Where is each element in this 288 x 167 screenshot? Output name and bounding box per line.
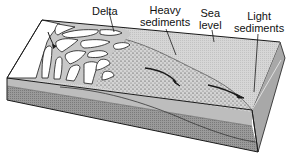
delta-label-text: Delta bbox=[92, 5, 118, 17]
light-sediments-label-line2: sediments bbox=[234, 22, 284, 34]
delta-block-diagram: Delta Heavy sediments Sea level Light se… bbox=[0, 0, 288, 167]
heavy-sediments-label: Heavy sediments bbox=[140, 4, 190, 28]
delta-label: Delta bbox=[92, 5, 118, 17]
sea-level-label-line1: Sea bbox=[199, 7, 222, 19]
heavy-sediments-label-line2: sediments bbox=[140, 16, 190, 28]
sea-level-label: Sea level bbox=[199, 7, 222, 31]
light-sediments-label: Light sediments bbox=[234, 10, 284, 34]
sea-level-label-line2: level bbox=[199, 19, 222, 31]
light-sediments-label-line1: Light bbox=[234, 10, 284, 22]
heavy-sediments-label-line1: Heavy bbox=[140, 4, 190, 16]
